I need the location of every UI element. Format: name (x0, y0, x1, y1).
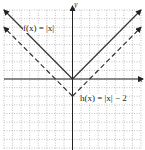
x-axis-label: x (139, 76, 143, 84)
f-function-label: f(x) = |x| (23, 24, 54, 33)
y-axis-label: y (74, 1, 78, 9)
h-function-label: h(x) = |x| − 2 (80, 94, 127, 103)
coordinate-plane (0, 0, 145, 150)
